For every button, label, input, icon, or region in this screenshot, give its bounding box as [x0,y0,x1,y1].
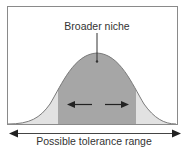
broader-niche-label: Broader niche [0,20,188,32]
label-pointer-dot [96,60,98,62]
niche-diagram: Broader niche Possible tolerance range [0,0,188,147]
tolerance-range-label: Possible tolerance range [0,135,188,147]
